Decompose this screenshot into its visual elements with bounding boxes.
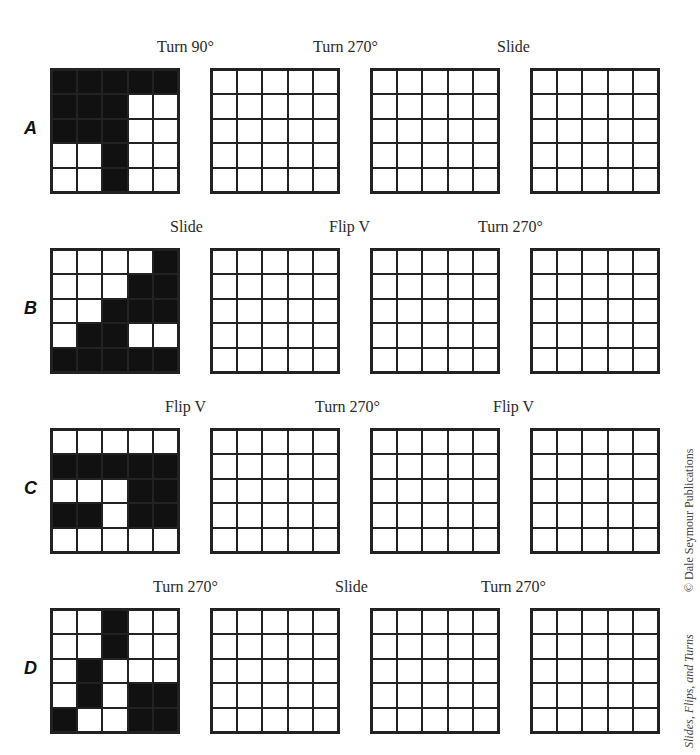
- empty-cell[interactable]: [474, 349, 497, 371]
- empty-cell[interactable]: [449, 251, 472, 273]
- empty-cell[interactable]: [533, 169, 556, 191]
- empty-cell[interactable]: [474, 251, 497, 273]
- empty-cell[interactable]: [558, 275, 581, 297]
- empty-cell[interactable]: [398, 529, 421, 551]
- empty-cell[interactable]: [398, 144, 421, 166]
- empty-cell[interactable]: [398, 709, 421, 731]
- empty-cell[interactable]: [533, 120, 556, 142]
- empty-cell[interactable]: [558, 660, 581, 682]
- empty-cell[interactable]: [398, 251, 421, 273]
- empty-cell[interactable]: [474, 660, 497, 682]
- empty-cell[interactable]: [474, 431, 497, 453]
- empty-cell[interactable]: [263, 275, 286, 297]
- empty-cell[interactable]: [213, 480, 236, 502]
- empty-cell[interactable]: [314, 431, 337, 453]
- empty-cell[interactable]: [634, 95, 657, 117]
- empty-cell[interactable]: [533, 455, 556, 477]
- empty-cell[interactable]: [423, 480, 446, 502]
- empty-cell[interactable]: [609, 275, 632, 297]
- empty-cell[interactable]: [373, 504, 396, 526]
- empty-cell[interactable]: [474, 120, 497, 142]
- empty-cell[interactable]: [423, 275, 446, 297]
- empty-cell[interactable]: [289, 455, 312, 477]
- empty-cell[interactable]: [634, 455, 657, 477]
- empty-cell[interactable]: [373, 95, 396, 117]
- empty-cell[interactable]: [314, 95, 337, 117]
- empty-cell[interactable]: [398, 660, 421, 682]
- empty-cell[interactable]: [558, 455, 581, 477]
- empty-cell[interactable]: [533, 635, 556, 657]
- empty-cell[interactable]: [609, 480, 632, 502]
- empty-cell[interactable]: [609, 349, 632, 371]
- empty-cell[interactable]: [213, 95, 236, 117]
- empty-cell[interactable]: [398, 275, 421, 297]
- answer-grid[interactable]: [370, 608, 500, 734]
- empty-cell[interactable]: [533, 300, 556, 322]
- empty-cell[interactable]: [314, 144, 337, 166]
- empty-cell[interactable]: [373, 660, 396, 682]
- empty-cell[interactable]: [533, 660, 556, 682]
- empty-cell[interactable]: [238, 635, 261, 657]
- empty-cell[interactable]: [423, 504, 446, 526]
- empty-cell[interactable]: [609, 660, 632, 682]
- empty-cell[interactable]: [474, 144, 497, 166]
- empty-cell[interactable]: [373, 275, 396, 297]
- empty-cell[interactable]: [314, 324, 337, 346]
- empty-cell[interactable]: [238, 71, 261, 93]
- empty-cell[interactable]: [533, 504, 556, 526]
- empty-cell[interactable]: [423, 635, 446, 657]
- empty-cell[interactable]: [423, 684, 446, 706]
- empty-cell[interactable]: [213, 431, 236, 453]
- empty-cell[interactable]: [449, 324, 472, 346]
- empty-cell[interactable]: [263, 529, 286, 551]
- empty-cell[interactable]: [609, 251, 632, 273]
- empty-cell[interactable]: [373, 635, 396, 657]
- empty-cell[interactable]: [449, 144, 472, 166]
- empty-cell[interactable]: [289, 349, 312, 371]
- empty-cell[interactable]: [423, 324, 446, 346]
- empty-cell[interactable]: [609, 144, 632, 166]
- empty-cell[interactable]: [609, 635, 632, 657]
- empty-cell[interactable]: [289, 660, 312, 682]
- empty-cell[interactable]: [314, 684, 337, 706]
- empty-cell[interactable]: [289, 300, 312, 322]
- empty-cell[interactable]: [449, 611, 472, 633]
- empty-cell[interactable]: [238, 144, 261, 166]
- empty-cell[interactable]: [263, 144, 286, 166]
- empty-cell[interactable]: [558, 144, 581, 166]
- empty-cell[interactable]: [213, 635, 236, 657]
- empty-cell[interactable]: [238, 349, 261, 371]
- empty-cell[interactable]: [583, 611, 606, 633]
- empty-cell[interactable]: [533, 324, 556, 346]
- empty-cell[interactable]: [558, 431, 581, 453]
- empty-cell[interactable]: [423, 455, 446, 477]
- empty-cell[interactable]: [474, 611, 497, 633]
- empty-cell[interactable]: [423, 709, 446, 731]
- empty-cell[interactable]: [583, 480, 606, 502]
- empty-cell[interactable]: [238, 455, 261, 477]
- empty-cell[interactable]: [314, 529, 337, 551]
- empty-cell[interactable]: [314, 251, 337, 273]
- empty-cell[interactable]: [583, 300, 606, 322]
- empty-cell[interactable]: [609, 709, 632, 731]
- empty-cell[interactable]: [263, 251, 286, 273]
- empty-cell[interactable]: [314, 275, 337, 297]
- empty-cell[interactable]: [373, 455, 396, 477]
- empty-cell[interactable]: [263, 71, 286, 93]
- empty-cell[interactable]: [263, 431, 286, 453]
- empty-cell[interactable]: [314, 611, 337, 633]
- empty-cell[interactable]: [634, 144, 657, 166]
- empty-cell[interactable]: [583, 431, 606, 453]
- empty-cell[interactable]: [474, 635, 497, 657]
- empty-cell[interactable]: [213, 504, 236, 526]
- empty-cell[interactable]: [398, 120, 421, 142]
- empty-cell[interactable]: [533, 71, 556, 93]
- empty-cell[interactable]: [474, 684, 497, 706]
- empty-cell[interactable]: [474, 455, 497, 477]
- empty-cell[interactable]: [263, 455, 286, 477]
- empty-cell[interactable]: [213, 144, 236, 166]
- empty-cell[interactable]: [398, 635, 421, 657]
- empty-cell[interactable]: [423, 71, 446, 93]
- empty-cell[interactable]: [398, 455, 421, 477]
- answer-grid[interactable]: [530, 608, 660, 734]
